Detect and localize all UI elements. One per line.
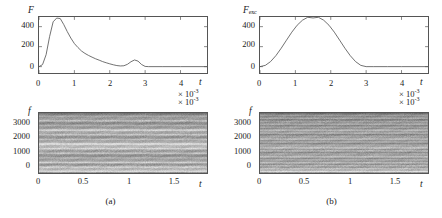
spec-x-tick-a-0: 0 [30,176,46,186]
spectrogram-canvas-a [39,113,207,173]
x-axis-label-b: t [420,77,423,87]
spec-y-axis-label-b: f [249,107,252,117]
spec-exponent-b: × 10-3 [399,96,419,107]
x-tick-a-4: 4 [173,78,189,88]
y-tick-b-2: 400 [229,20,255,30]
panel-caption-b: (b) [221,196,442,206]
x-tick-a-3: 3 [137,78,153,88]
x-axis-label-a: t [199,77,202,87]
x-tick-b-1: 1 [287,78,303,88]
spec-x-tick-a-2: 1 [121,176,137,186]
spec-y-axis-label-a: f [28,107,31,117]
x-tick-b-4: 4 [394,78,410,88]
y-axis-label-a: F [28,6,34,16]
spec-x-tick-b-0: 0 [251,176,267,186]
spec-y-tick-a-1: 1000 [4,146,30,156]
y-axis-label-b: Fexc [243,6,257,16]
x-tick-a-1: 1 [66,78,82,88]
y-tick-a-2: 400 [8,20,34,30]
spec-x-tick-b-1: 0.5 [296,176,312,186]
spec-exponent-a: × 10-3 [178,96,198,107]
plot-frame-a [38,16,208,74]
panel-caption-a: (a) [0,196,221,206]
lineplot-b: Fexc 400 200 0 0 1 [221,0,442,100]
spec-y-tick-a-2: 2000 [4,131,30,141]
force-curve-a [39,17,207,73]
spec-y-tick-b-3: 3000 [225,117,251,127]
spec-x-tick-a-1: 0.5 [75,176,91,186]
figure-root: F 400 200 0 0 1 2 [0,0,442,218]
y-tick-a-1: 200 [8,39,34,49]
spec-y-tick-b-0: 0 [225,160,251,170]
spec-y-tick-a-0: 0 [4,160,30,170]
spectrogram-image-a [38,112,208,174]
x-tick-a-0: 0 [30,78,46,88]
spec-x-axis-label-b: t [420,179,423,189]
spec-y-tick-b-2: 2000 [225,131,251,141]
spectrogram-image-b [259,112,429,174]
panel-b: Fexc 400 200 0 0 1 [221,0,442,218]
x-tick-a-2: 2 [102,78,118,88]
y-tick-b-0: 0 [229,61,255,71]
force-curve-b [260,17,428,73]
panel-a: F 400 200 0 0 1 2 [0,0,221,218]
spec-x-tick-a-3: 1.5 [166,176,182,186]
spec-y-tick-a-3: 3000 [4,117,30,127]
y-tick-b-1: 200 [229,39,255,49]
spec-x-axis-label-a: t [199,179,202,189]
x-tick-b-3: 3 [358,78,374,88]
y-tick-a-0: 0 [8,61,34,71]
spec-x-tick-b-2: 1 [342,176,358,186]
plot-frame-b [259,16,429,74]
spec-y-tick-b-1: 1000 [225,146,251,156]
lineplot-a: F 400 200 0 0 1 2 [0,0,221,100]
spectrogram-canvas-b [260,113,428,173]
x-tick-b-2: 2 [323,78,339,88]
spec-x-tick-b-3: 1.5 [387,176,403,186]
x-tick-b-0: 0 [251,78,267,88]
